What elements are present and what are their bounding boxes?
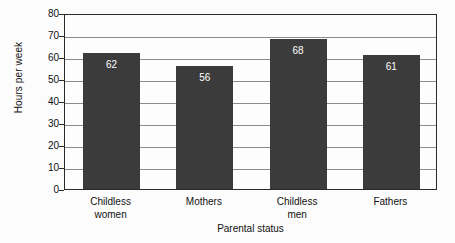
y-tick-label: 70 <box>33 31 59 41</box>
bar-chart-figure: Hours per week 01020304050607080 6256686… <box>0 0 455 243</box>
y-axis-title: Hours per week <box>13 13 24 143</box>
x-category-label: Mothers <box>157 195 250 208</box>
y-tick-label: 50 <box>33 75 59 85</box>
x-category-label-line: women <box>64 208 157 221</box>
y-tick-label: 30 <box>33 119 59 129</box>
y-tick-label: 40 <box>33 97 59 107</box>
x-category-label: Fathers <box>344 195 437 208</box>
y-tick-mark <box>59 190 64 191</box>
x-category-label: Childlessmen <box>251 195 344 221</box>
bars-layer: 62566861 <box>65 15 436 189</box>
x-category-label-line: Fathers <box>344 195 437 208</box>
bar: 68 <box>270 39 327 189</box>
y-tick-label: 10 <box>33 163 59 173</box>
y-tick-label: 60 <box>33 53 59 63</box>
bar-value-label: 61 <box>363 61 420 72</box>
bar: 62 <box>83 53 140 189</box>
x-category-label-line: Childless <box>251 195 344 208</box>
bar: 61 <box>363 55 420 189</box>
x-axis-title: Parental status <box>64 223 437 234</box>
bar-value-label: 56 <box>176 72 233 83</box>
y-tick-label: 0 <box>33 185 59 195</box>
plot-area: 62566861 <box>64 14 437 190</box>
x-category-label: Childlesswomen <box>64 195 157 221</box>
bar-value-label: 68 <box>270 45 327 56</box>
x-category-label-line: Mothers <box>157 195 250 208</box>
x-category-label-line: Childless <box>64 195 157 208</box>
x-category-label-line: men <box>251 208 344 221</box>
y-tick-label: 20 <box>33 141 59 151</box>
bar: 56 <box>176 66 233 189</box>
bar-value-label: 62 <box>83 59 140 70</box>
y-tick-label: 80 <box>33 9 59 19</box>
